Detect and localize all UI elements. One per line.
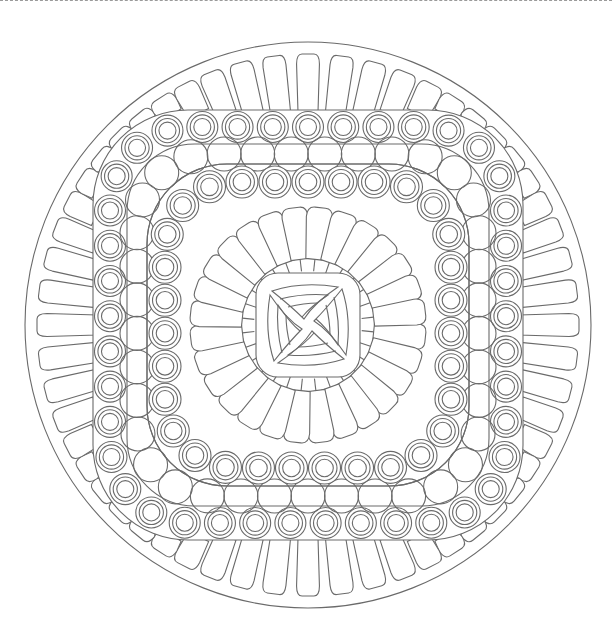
mandala-artwork xyxy=(0,0,612,617)
center-swirl-square xyxy=(256,273,360,377)
